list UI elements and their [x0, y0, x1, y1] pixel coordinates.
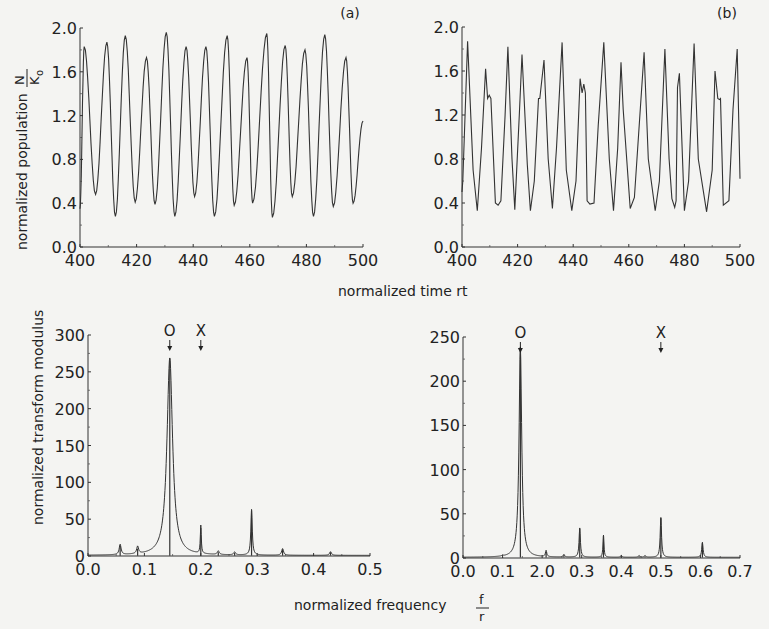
x-tick-label: 2.0: [529, 562, 554, 581]
y-tick-label: 0.8: [434, 150, 459, 169]
x-tick-label: 420: [502, 251, 533, 270]
arrow-head-icon: [518, 348, 523, 353]
arrow-head-icon: [198, 346, 203, 351]
spectrum-curve: [463, 347, 740, 557]
y-tick-label: 200: [54, 400, 85, 419]
y-tick-label: 150: [429, 416, 460, 435]
y-tick-label: 1.6: [52, 63, 77, 82]
y-tick-label: 2.0: [52, 19, 77, 38]
spectrum-curve: [88, 358, 370, 555]
x-tick-label: 440: [558, 251, 589, 270]
y-tick-label: 0.4: [52, 194, 77, 213]
x-tick-label: 0.1: [132, 560, 157, 579]
bottom-x-axis-label: normalized frequency: [294, 597, 446, 613]
y-tick-label: 100: [429, 461, 460, 480]
y-tick-label: 1.6: [434, 62, 459, 81]
x-tick-label: 0.3: [569, 562, 594, 581]
bottom-x-fraction-den: r: [479, 609, 485, 624]
peak-annotation-o: O: [164, 322, 176, 340]
panel-b-time-series: 0.00.40.81.21.62.0400420440460480500(b): [434, 5, 756, 270]
x-tick-label: 0.3: [244, 560, 269, 579]
x-tick-label: 0.4: [301, 560, 326, 579]
y-tick-label: 1.2: [434, 106, 459, 125]
y-tick-label: 150: [54, 437, 85, 456]
y-tick-label: 2.0: [434, 18, 459, 37]
x-tick-label: 460: [235, 251, 266, 270]
top-y-fraction-sub: o: [34, 70, 45, 76]
x-tick-label: 0.0: [75, 560, 100, 579]
top-x-axis-label: normalized time rt: [338, 283, 468, 299]
y-tick-label: 250: [429, 328, 460, 347]
top-y-fraction-den: K: [27, 76, 42, 85]
x-tick-label: 0.1: [490, 562, 515, 581]
x-tick-label: 460: [614, 251, 645, 270]
peak-annotation-x: X: [656, 324, 666, 342]
x-tick-label: 420: [121, 251, 152, 270]
y-tick-label: 100: [54, 473, 85, 492]
x-tick-label: 0.6: [688, 562, 713, 581]
y-tick-label: 250: [54, 363, 85, 382]
panel-a-time-series: 0.00.40.81.21.62.0400420440460480500(a): [52, 5, 379, 270]
arrow-head-icon: [658, 348, 663, 353]
x-tick-label: 440: [178, 251, 209, 270]
arrow-head-icon: [167, 346, 172, 351]
y-tick-label: 0.4: [434, 194, 459, 213]
top-y-axis-label: normalized population: [14, 93, 30, 250]
x-tick-label: 0.2: [188, 560, 213, 579]
x-tick-label: 400: [65, 251, 96, 270]
top-y-fraction-num: N: [12, 75, 27, 85]
figure: 0.00.40.81.21.62.0400420440460480500(a) …: [0, 0, 769, 629]
x-tick-label: 0.4: [609, 562, 634, 581]
x-tick-label: 0.5: [648, 562, 673, 581]
x-tick-label: 500: [348, 251, 379, 270]
x-tick-label: 0.0: [450, 562, 475, 581]
population-curve: [462, 41, 740, 212]
x-tick-label: 480: [669, 251, 700, 270]
x-tick-label: 400: [447, 251, 478, 270]
y-tick-label: 50: [440, 505, 460, 524]
x-tick-label: 0.7: [727, 562, 752, 581]
y-tick-label: 0.8: [52, 150, 77, 169]
panel-c-spectrum: 0501001502002503000.00.10.20.30.40.5OX: [54, 322, 382, 579]
y-tick-label: 300: [54, 326, 85, 345]
x-tick-label: 0.5: [357, 560, 382, 579]
bottom-x-fraction-num: f: [479, 592, 484, 607]
y-tick-label: 200: [429, 372, 460, 391]
panel-label: (b): [717, 5, 737, 21]
panel-d-spectrum: 0501001502002500.00.12.00.30.40.50.60.7O…: [429, 324, 752, 581]
x-tick-label: 480: [291, 251, 322, 270]
peak-annotation-x: X: [196, 322, 206, 340]
y-tick-label: 1.2: [52, 107, 77, 126]
bottom-y-axis-label: normalized transform modulus: [30, 310, 46, 525]
panel-label: (a): [340, 5, 360, 21]
x-tick-label: 500: [725, 251, 756, 270]
y-tick-label: 50: [65, 510, 85, 529]
peak-annotation-o: O: [514, 324, 526, 342]
population-curve: [80, 32, 363, 217]
